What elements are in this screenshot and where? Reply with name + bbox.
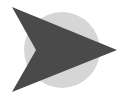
arrow-icon-graphic [0,0,121,100]
arrow-right-icon [0,0,121,100]
